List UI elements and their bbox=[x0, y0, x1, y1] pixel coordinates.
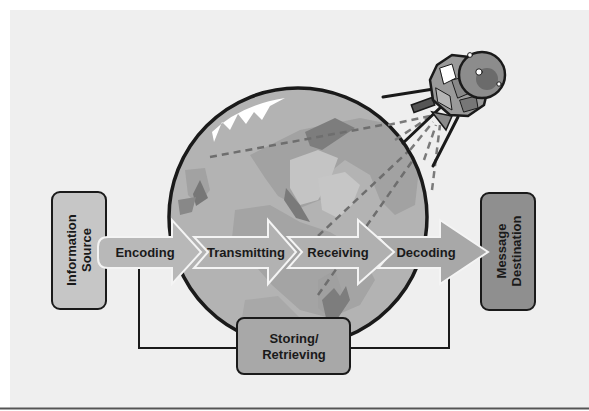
message-destination-box: Message Destination bbox=[481, 193, 535, 310]
source-label-line1: Information bbox=[64, 214, 79, 286]
step-label-receiving: Receiving bbox=[307, 245, 368, 260]
source-label-line2: Source bbox=[79, 228, 94, 272]
svg-text:Destination: Destination bbox=[509, 216, 524, 287]
svg-text:Source: Source bbox=[79, 228, 94, 272]
storage-label-line2: Retrieving bbox=[262, 347, 326, 362]
step-label-transmitting: Transmitting bbox=[207, 245, 285, 260]
step-label-encoding: Encoding bbox=[115, 245, 174, 260]
storing-retrieving-box: Storing/ Retrieving bbox=[237, 318, 350, 374]
communication-diagram: Information Source Message Destination D… bbox=[0, 0, 589, 411]
svg-text:Information: Information bbox=[64, 214, 79, 286]
globe-icon bbox=[169, 88, 427, 346]
step-label-decoding: Decoding bbox=[396, 245, 455, 260]
storage-label-line1: Storing/ bbox=[269, 331, 318, 346]
svg-text:Message: Message bbox=[494, 224, 509, 279]
destination-label-line2: Destination bbox=[509, 216, 524, 287]
destination-label-line1: Message bbox=[494, 224, 509, 279]
